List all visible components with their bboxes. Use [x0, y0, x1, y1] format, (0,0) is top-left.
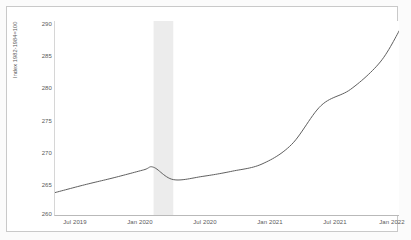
cpi-series-line: [55, 29, 399, 192]
chart-card: Index 1982-1984=100 290 285 280 275 270 …: [6, 6, 398, 232]
x-tick-label: Jul 2019: [63, 219, 87, 225]
y-tick-label: 285: [10, 53, 52, 60]
x-tick-label: Jan 2021: [257, 219, 283, 225]
y-tick-label: 260: [10, 211, 52, 218]
y-tick-label: 275: [10, 118, 52, 125]
x-tick-label: Jul 2021: [323, 219, 347, 225]
y-tick-label: 270: [10, 150, 52, 157]
x-tick-label: Jan 2020: [127, 219, 153, 225]
chart-plot-svg: [55, 21, 399, 216]
y-tick-label: 290: [10, 21, 52, 28]
plot-area: [54, 21, 399, 216]
x-tick-label: Jul 2020: [193, 219, 217, 225]
chart-screenshot: Index 1982-1984=100 290 285 280 275 270 …: [0, 0, 411, 240]
x-axis-tick-labels: Jul 2019 Jan 2020 Jul 2020 Jan 2021 Jul …: [54, 219, 399, 233]
x-tick-label: Jan 2022: [379, 219, 405, 225]
y-tick-label: 280: [10, 85, 52, 92]
recession-shading-band: [154, 21, 174, 216]
y-axis-tick-labels: 290 285 280 275 270 265 260: [7, 21, 52, 216]
y-tick-label: 265: [10, 182, 52, 189]
